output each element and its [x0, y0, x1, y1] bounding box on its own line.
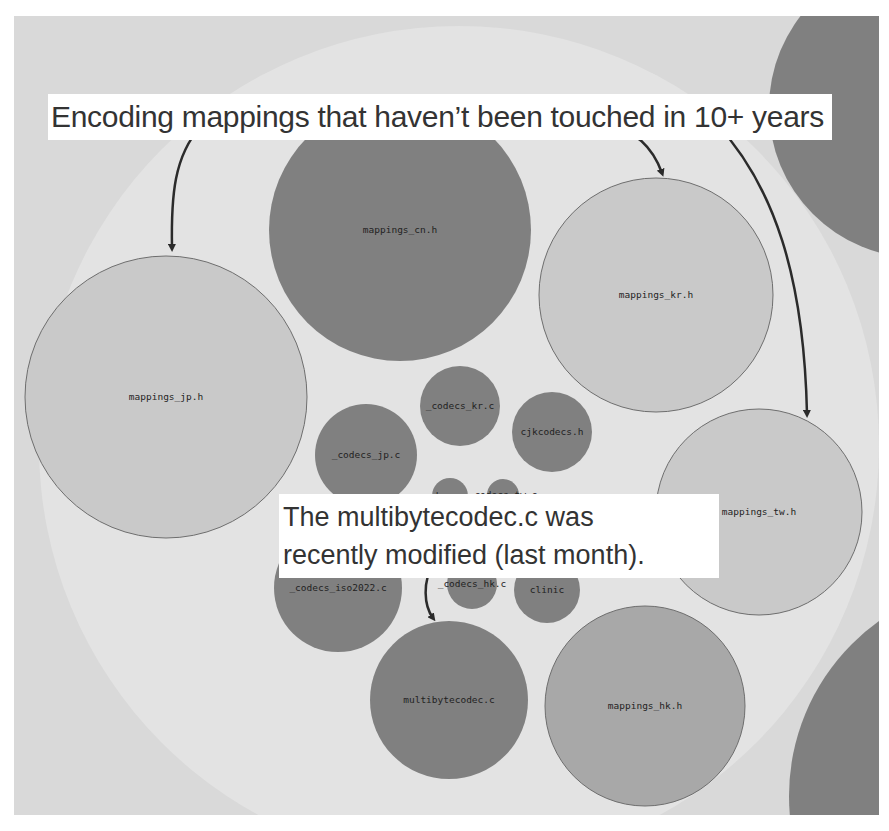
circle-packing-visualization: mappings_cn.hmappings_kr.hmappings_jp.hm… [14, 16, 879, 815]
bubble-codecs-jp[interactable]: _codecs_jp.c [315, 404, 417, 506]
bubble-mappings-kr[interactable]: mappings_kr.h [539, 178, 773, 412]
annotation-text: Encoding mappings that haven’t been touc… [51, 100, 824, 133]
bubble-label: multibytecodec.c [403, 694, 495, 705]
bubble-label: _codecs_kr.c [426, 400, 495, 411]
bubble-cjkcodecs[interactable]: cjkcodecs.h [512, 392, 592, 472]
bubble-label: mappings_kr.h [619, 289, 693, 300]
bubble-label: cjkcodecs.h [521, 426, 584, 437]
bubble-label: _codecs_jp.c [332, 449, 401, 460]
bubble-label: _codecs_hk.c [438, 578, 507, 589]
bubble-label: _codecs_iso2022.c [289, 582, 386, 593]
bubble-label: mappings_cn.h [363, 224, 437, 235]
bubble-codecs-kr[interactable]: _codecs_kr.c [420, 366, 500, 446]
annotation-text-line2: recently modified (last month). [283, 536, 719, 574]
bubble-label: clinic [530, 584, 564, 595]
bubble-mappings-hk[interactable]: mappings_hk.h [545, 606, 745, 806]
annotation-old-mappings: Encoding mappings that haven’t been touc… [48, 94, 832, 140]
bubble-label: mappings_tw.h [722, 506, 796, 517]
annotation-text-line1: The multibytecodec.c was [283, 498, 719, 536]
bubble-multibytecodec[interactable]: multibytecodec.c [370, 621, 528, 779]
annotation-recent-change: The multibytecodec.c was recently modifi… [279, 494, 719, 578]
bubble-label: mappings_hk.h [608, 700, 682, 711]
bubble-mappings-jp[interactable]: mappings_jp.h [25, 256, 307, 538]
bubble-label: mappings_jp.h [129, 391, 203, 402]
